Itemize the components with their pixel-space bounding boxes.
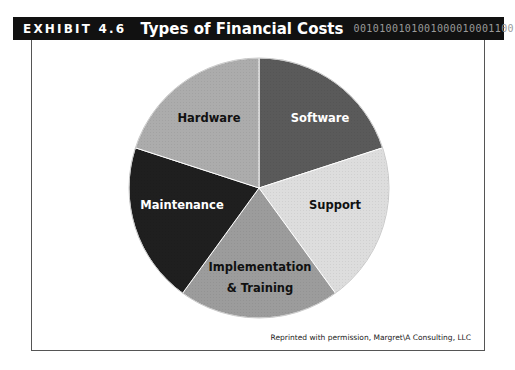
label-support: Support: [309, 198, 362, 212]
label-implementation-line2: & Training: [227, 281, 294, 295]
pie-chart: Software Support Implementation & Traini…: [0, 0, 515, 370]
label-software: Software: [291, 111, 350, 125]
label-implementation-line1: Implementation: [209, 260, 312, 274]
label-maintenance: Maintenance: [140, 198, 224, 212]
pie-texture: [129, 58, 389, 318]
label-hardware: Hardware: [177, 111, 240, 125]
